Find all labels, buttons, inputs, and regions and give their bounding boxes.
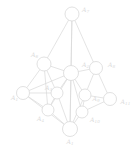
graph-edge: [70, 81, 71, 122]
graph-node: [65, 7, 79, 21]
graph-node-label: A11: [120, 98, 131, 106]
graph-edge: [53, 114, 65, 124]
graph-node-label: A2: [81, 61, 89, 69]
graph-node: [79, 89, 91, 101]
graph-node-label: A10: [89, 116, 100, 124]
graph-edge: [75, 79, 82, 90]
node-layer: [17, 7, 117, 137]
graph-edge: [59, 99, 67, 122]
graph-edge: [87, 102, 104, 110]
graph-edge: [51, 66, 64, 70]
graph-edge: [60, 79, 66, 88]
graph-edge: [27, 70, 40, 88]
graph-node: [63, 122, 78, 137]
graph-node-label: A8: [107, 61, 115, 69]
graph-node-label: A6: [30, 51, 38, 59]
graph-edge: [78, 69, 89, 71]
graph-node: [51, 87, 63, 99]
graph-node: [104, 93, 117, 106]
graph-node-label: A7: [81, 6, 89, 14]
graph-canvas: A7A6A2A8A1A3A9A11A4A10A1: [0, 0, 139, 147]
graph-edge: [87, 74, 93, 89]
graph-node: [17, 87, 30, 100]
graph-node-label: A4: [36, 115, 44, 123]
graph-edge: [99, 74, 108, 93]
graph-edge: [28, 97, 43, 107]
graph-node: [90, 62, 103, 75]
graph-node-label: A9: [92, 95, 100, 103]
graph-node: [64, 66, 79, 81]
graph-diagram: A7A6A2A8A1A3A9A11A4A10A1: [0, 0, 139, 147]
graph-node-label: A3: [44, 84, 52, 92]
graph-node-label: A1: [66, 138, 74, 146]
graph-edge: [75, 20, 94, 62]
graph-node: [37, 57, 51, 71]
graph-node: [76, 106, 88, 118]
graph-edge: [83, 101, 84, 106]
graph-node: [42, 104, 54, 116]
graph-edge: [47, 20, 68, 58]
